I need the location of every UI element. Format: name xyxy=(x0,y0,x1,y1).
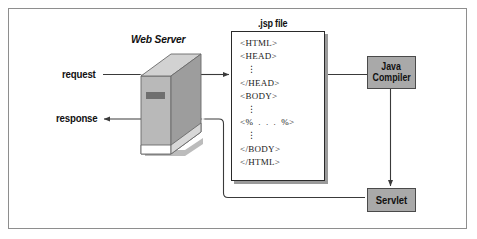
response-label: response xyxy=(56,112,97,124)
code-line-scriptlet: <% . . . %> xyxy=(240,116,294,129)
code-line: </HEAD> xyxy=(240,77,294,90)
request-label: request xyxy=(62,68,96,80)
servlet-box: Servlet xyxy=(367,188,416,212)
jsp-file-label: .jsp file xyxy=(258,18,287,29)
code-line: <HTML> xyxy=(240,37,294,50)
code-line: <BODY> xyxy=(240,90,294,103)
code-line: </HTML> xyxy=(240,156,294,169)
code-line-ellipsis: ⋮ xyxy=(240,103,294,116)
figure-root: <HTML> <HEAD> ⋮ </HEAD> <BODY> ⋮ <% . . … xyxy=(0,0,477,239)
jsp-file-code: <HTML> <HEAD> ⋮ </HEAD> <BODY> ⋮ <% . . … xyxy=(240,37,294,169)
code-line-ellipsis: ⋮ xyxy=(240,129,294,142)
java-compiler-box: Java Compiler xyxy=(367,56,416,89)
code-line-ellipsis: ⋮ xyxy=(240,63,294,76)
code-line: </BODY> xyxy=(240,143,294,156)
java-compiler-label-line2: Compiler xyxy=(372,73,410,83)
code-line: <HEAD> xyxy=(240,50,294,63)
web-server-icon xyxy=(135,46,207,164)
servlet-label: Servlet xyxy=(376,195,408,206)
web-server-label: Web Server xyxy=(131,33,185,45)
